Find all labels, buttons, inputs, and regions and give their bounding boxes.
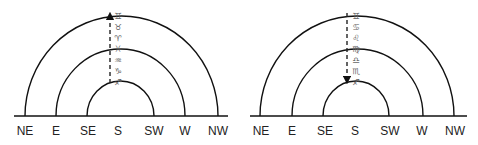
direction-label-nw: NW: [208, 124, 229, 138]
zodiac-symbol: ♈: [114, 33, 122, 43]
zodiac-symbol: ♊: [114, 11, 122, 21]
direction-label-ne: NE: [17, 124, 34, 138]
zodiac-symbol: ♑: [114, 66, 122, 76]
direction-label-se: SE: [317, 124, 333, 138]
zodiac-symbol: ♐: [352, 77, 360, 87]
zodiac-symbol: ♋: [352, 22, 360, 32]
zodiac-symbol: ♌: [352, 33, 360, 43]
zodiac-symbol: ♒: [114, 55, 122, 65]
direction-label-s: S: [114, 124, 122, 138]
zodiac-symbol: ♊: [352, 11, 360, 21]
zodiac-symbol: ♍: [352, 44, 360, 54]
direction-label-s: S: [351, 124, 359, 138]
zodiac-symbol: ♉: [114, 22, 122, 32]
direction-label-ne: NE: [253, 124, 270, 138]
direction-label-w: W: [416, 124, 428, 138]
direction-label-e: E: [52, 124, 60, 138]
left-diagram: ♊ ♉ ♈ ♓ ♒ ♑ ♐ NE E SE S SW W NW: [14, 11, 229, 138]
zodiac-symbol: ♐: [114, 77, 122, 87]
direction-label-se: SE: [80, 124, 96, 138]
zodiac-symbol: ♏: [352, 66, 360, 76]
sun-path-diagrams: ♊ ♉ ♈ ♓ ♒ ♑ ♐ NE E SE S SW W NW ♊ ♋ ♌ ♍ …: [0, 0, 478, 145]
direction-label-sw: SW: [144, 124, 164, 138]
direction-label-w: W: [179, 124, 191, 138]
right-diagram: ♊ ♋ ♌ ♍ ♎ ♏ ♐ NE E SE S SW W NW: [250, 11, 467, 138]
direction-label-sw: SW: [380, 124, 400, 138]
direction-label-e: E: [288, 124, 296, 138]
direction-label-nw: NW: [445, 124, 466, 138]
zodiac-symbol: ♓: [114, 44, 122, 54]
zodiac-symbol: ♎: [352, 55, 360, 65]
